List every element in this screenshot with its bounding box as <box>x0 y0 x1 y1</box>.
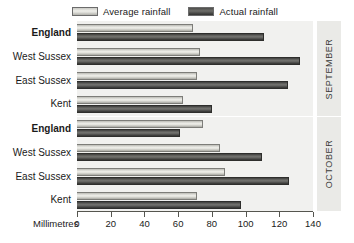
panel-september <box>77 21 313 116</box>
category-label: Kent <box>50 92 71 116</box>
bar-actual <box>77 153 262 161</box>
rainfall-bar-chart: Average rainfall Actual rainfall England… <box>0 0 354 243</box>
bar-actual <box>77 177 289 185</box>
category-label: Kent <box>50 188 71 212</box>
bar-group <box>77 92 313 116</box>
bar-avg <box>77 24 193 32</box>
bar-avg <box>77 168 225 176</box>
x-axis-tick-label: 140 <box>305 218 321 229</box>
bar-avg <box>77 192 197 200</box>
category-axis-labels: EnglandWest SussexEast SussexKentEngland… <box>0 21 74 211</box>
legend-item-actual-rainfall: Actual rainfall <box>188 6 278 17</box>
bar-actual <box>77 129 180 137</box>
x-axis <box>77 211 313 218</box>
category-label: East Sussex <box>15 165 71 189</box>
x-axis-tick <box>77 212 78 217</box>
bar-avg <box>77 144 220 152</box>
bar-group <box>77 165 313 189</box>
bar-group <box>77 45 313 69</box>
month-panel-strip: SEPTEMBEROCTOBER <box>317 21 341 211</box>
legend-label-average-rainfall: Average rainfall <box>103 6 170 17</box>
month-panel-september: SEPTEMBER <box>317 21 341 116</box>
legend-swatch-actual-rainfall <box>188 7 214 16</box>
chart-legend: Average rainfall Actual rainfall <box>72 5 278 18</box>
bar-actual <box>77 81 288 89</box>
bar-avg <box>77 96 183 104</box>
bar-avg <box>77 120 203 128</box>
bar-group <box>77 141 313 165</box>
x-axis-tick <box>178 212 179 217</box>
category-label: England <box>32 117 71 141</box>
x-axis-tick <box>111 212 112 217</box>
x-axis-tick <box>279 212 280 217</box>
bar-group <box>77 21 313 45</box>
bar-actual <box>77 201 241 209</box>
category-label: West Sussex <box>13 141 71 165</box>
legend-swatch-average-rainfall <box>72 7 98 16</box>
x-axis-tick-label: 40 <box>139 218 150 229</box>
bar-avg <box>77 48 200 56</box>
category-label: West Sussex <box>13 45 71 69</box>
x-axis-tick <box>212 212 213 217</box>
x-axis-tick-label: 60 <box>173 218 184 229</box>
panel-october <box>77 116 313 211</box>
x-axis-tick-label: 120 <box>271 218 287 229</box>
x-axis-tick <box>313 212 314 217</box>
bar-actual <box>77 105 212 113</box>
bar-avg <box>77 72 197 80</box>
category-label: East Sussex <box>15 69 71 93</box>
month-panel-label: SEPTEMBER <box>324 38 334 99</box>
x-axis-tick-label: 0 <box>74 218 79 229</box>
bar-actual <box>77 57 300 65</box>
x-axis-tick <box>246 212 247 217</box>
bar-group <box>77 69 313 93</box>
bar-actual <box>77 33 264 41</box>
legend-label-actual-rainfall: Actual rainfall <box>219 6 278 17</box>
month-panel-october: OCTOBER <box>317 116 341 211</box>
x-axis-tick-label: 80 <box>207 218 218 229</box>
category-label: England <box>32 21 71 45</box>
legend-item-average-rainfall: Average rainfall <box>72 6 170 17</box>
month-panel-label: OCTOBER <box>324 140 334 189</box>
x-axis-title: Millimetres <box>33 218 78 229</box>
x-axis-tick <box>144 212 145 217</box>
x-axis-tick-label: 20 <box>105 218 116 229</box>
plot-area <box>77 21 313 211</box>
x-axis-tick-label: 100 <box>238 218 254 229</box>
bar-group <box>77 188 313 212</box>
bar-group <box>77 117 313 141</box>
